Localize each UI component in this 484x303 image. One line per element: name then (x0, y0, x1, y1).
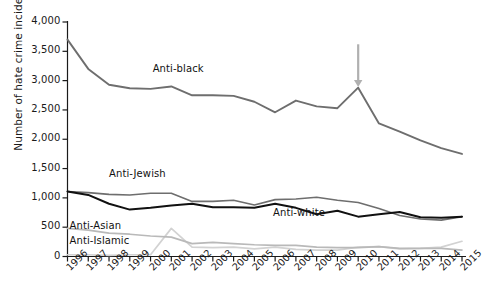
y-tick-label: 0 (54, 250, 60, 261)
series-label-anti-islamic: Anti-Islamic (70, 235, 130, 246)
series-line-anti-black (68, 40, 463, 154)
y-tick-label: 3,500 (31, 44, 60, 55)
y-tick-label: 3,000 (31, 74, 60, 85)
y-tick-label: 2,500 (31, 103, 60, 114)
y-tick-label: 500 (41, 220, 60, 231)
series-label-anti-jewish: Anti-Jewish (109, 168, 166, 179)
series-label-anti-asian: Anti-Asian (70, 220, 122, 231)
peak-arrow-icon (354, 44, 362, 87)
y-tick-label: 4,000 (31, 15, 60, 26)
series-label-anti-white: Anti-white (273, 207, 325, 218)
y-tick-label: 2,000 (31, 132, 60, 143)
y-tick-label: 1,500 (31, 162, 60, 173)
y-tick-label: 1,000 (31, 191, 60, 202)
series-label-anti-black: Anti-black (153, 63, 204, 74)
